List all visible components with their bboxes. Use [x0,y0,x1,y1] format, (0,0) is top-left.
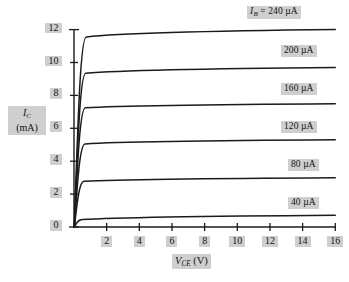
x-axis-title-unit: (V) [193,255,208,266]
x-tick-label-12: 12 [262,236,278,247]
x-tick-label-10: 10 [229,236,245,247]
curve-label-equals: = [258,6,268,16]
y-tick-label-12: 12 [45,23,62,34]
x-tick-label-6: 6 [166,236,177,247]
x-tick-label-4: 4 [134,236,145,247]
curve-label-value: 120 µA [284,121,314,131]
x-tick-label-16: 16 [327,236,343,247]
curve-label-IB_200: 200 µA [281,45,317,57]
curve-label-value: 200 µA [284,45,314,55]
x-tick-label-8: 8 [199,236,210,247]
curve-label-IB_120: 120 µA [281,121,317,133]
x-axis-title: VCE (V) [172,254,211,269]
curve-label-value: 40 µA [291,197,316,207]
curve-IB_120 [74,140,335,227]
curve-label-value: 240 µA [268,6,298,16]
y-tick-label-6: 6 [50,121,62,132]
curve-label-value: 80 µA [291,159,316,169]
curve-label-IB_160: 160 µA [281,83,317,95]
curve-label-IB_40: 40 µA [288,197,319,209]
y-tick-label-8: 8 [50,88,62,99]
y-tick-label-0: 0 [50,220,62,231]
y-axis-title-subscript: C [26,112,31,120]
y-axis-title: IC (mA) [8,106,46,135]
curve-label-IB_80: 80 µA [288,159,319,171]
curve-label-IB_240: IB = 240 µA [247,6,301,19]
y-tick-label-4: 4 [50,154,62,165]
y-tick-label-10: 10 [45,56,62,67]
transistor-characteristic-curves-figure: IC (mA) VCE (V) 121086420 246810121416 I… [0,0,349,282]
y-tick-label-2: 2 [50,187,62,198]
curve-label-value: 160 µA [284,83,314,93]
y-axis-title-unit: (mA) [9,122,45,133]
x-axis-title-subscript: CE [181,260,190,268]
x-tick-label-14: 14 [295,236,311,247]
x-tick-label-2: 2 [101,236,112,247]
